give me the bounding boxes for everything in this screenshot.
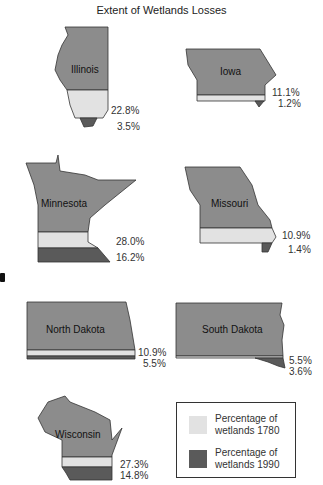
north-dakota-1990: 5.5% <box>143 358 166 369</box>
legend-item-1780: Percentage of wetlands 1780 <box>189 413 280 437</box>
label-north-dakota: North Dakota <box>46 324 105 335</box>
illinois-1990: 3.5% <box>117 121 140 132</box>
illinois-1780: 22.8% <box>111 105 139 116</box>
state-missouri <box>185 167 276 252</box>
state-south-dakota <box>176 303 285 368</box>
legend-1990-line2: wetlands 1990 <box>215 459 280 471</box>
missouri-1990: 1.4% <box>288 244 311 255</box>
label-wisconsin: Wisconsin <box>55 429 101 440</box>
state-iowa <box>186 49 276 107</box>
label-minnesota: Minnesota <box>41 198 87 209</box>
label-south-dakota: South Dakota <box>202 324 263 335</box>
legend-1780-line2: wetlands 1780 <box>215 425 280 437</box>
legend: Percentage of wetlands 1780 Percentage o… <box>176 402 296 478</box>
arrow-marker-icon <box>0 273 5 282</box>
south-dakota-1990: 3.6% <box>289 366 312 377</box>
state-illinois <box>55 27 108 127</box>
iowa-1990: 1.2% <box>278 98 301 109</box>
iowa-1780: 11.1% <box>272 87 300 98</box>
south-dakota-1780: 5.5% <box>289 355 312 366</box>
north-dakota-1780: 10.9% <box>138 347 166 358</box>
label-illinois: Illinois <box>71 64 99 75</box>
missouri-1780: 10.9% <box>282 230 310 241</box>
wisconsin-1990: 14.8% <box>120 470 148 481</box>
legend-1990-line1: Percentage of <box>215 447 280 459</box>
label-iowa: Iowa <box>220 66 241 77</box>
legend-item-1990: Percentage of wetlands 1990 <box>189 447 280 471</box>
label-missouri: Missouri <box>211 198 248 209</box>
swatch-1990 <box>189 450 207 468</box>
swatch-1780 <box>189 416 207 434</box>
legend-1780-line1: Percentage of <box>215 413 280 425</box>
wisconsin-1780: 27.3% <box>120 459 148 470</box>
minnesota-1780: 28.0% <box>116 236 144 247</box>
minnesota-1990: 16.2% <box>116 252 144 263</box>
